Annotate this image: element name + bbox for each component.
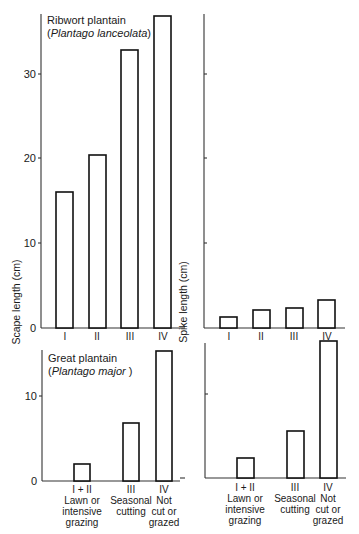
panel-bottom-left: 0 10 Great plantain (Plantago major ) I … bbox=[25, 350, 180, 528]
category-description: intensive bbox=[62, 506, 102, 517]
category-description: intensive bbox=[225, 504, 265, 515]
category-label: II bbox=[94, 331, 100, 342]
bar-IV bbox=[318, 300, 335, 328]
panel-title: Ribwort plantain bbox=[47, 14, 126, 26]
bar-IV bbox=[320, 341, 337, 478]
bar-II bbox=[253, 310, 270, 328]
y-tick-label: 0 bbox=[30, 322, 36, 334]
category-description: grazed bbox=[313, 515, 344, 526]
bar-IV bbox=[156, 351, 172, 481]
category-label: IV bbox=[159, 484, 169, 495]
category-label: I + II bbox=[235, 482, 255, 493]
category-description: Lawn or bbox=[227, 493, 263, 504]
bar-II bbox=[89, 155, 106, 328]
category-label: IV bbox=[158, 331, 168, 342]
category-description: grazing bbox=[229, 515, 262, 526]
category-label: III bbox=[127, 484, 135, 495]
bar-III bbox=[123, 423, 139, 481]
chart-figure: 0 10 20 30 Ribwort plantain (Plantago la… bbox=[0, 0, 359, 534]
panel-top-right: I II III IV bbox=[204, 14, 345, 342]
category-description: grazing bbox=[66, 517, 99, 528]
y-tick-label: 0 bbox=[31, 475, 37, 487]
panel-subtitle: (Plantago lanceolata) bbox=[47, 27, 151, 39]
bar-IV bbox=[154, 16, 171, 328]
category-description: cut or bbox=[151, 506, 177, 517]
bar-I-II bbox=[237, 458, 254, 478]
bar-III bbox=[286, 308, 303, 328]
bar-I bbox=[56, 192, 73, 328]
category-label: I bbox=[64, 331, 67, 342]
y-tick-label: 30 bbox=[24, 68, 36, 80]
category-label: III bbox=[291, 482, 299, 493]
panel-bottom-right: I + II Lawn or intensive grazing III Sea… bbox=[205, 341, 346, 526]
y-tick-label: 10 bbox=[24, 237, 36, 249]
y-tick-label: 20 bbox=[24, 152, 36, 164]
panel-subtitle: (Plantago major ) bbox=[48, 365, 132, 377]
category-description: cutting bbox=[280, 504, 309, 515]
category-label: I bbox=[228, 331, 231, 342]
panel-title: Great plantain bbox=[48, 352, 117, 364]
y-axis-title-left: Scape length (cm) bbox=[10, 259, 22, 344]
category-label: III bbox=[290, 331, 298, 342]
bar-III bbox=[287, 431, 304, 478]
category-description: Not bbox=[156, 495, 172, 506]
category-label: III bbox=[126, 331, 134, 342]
y-tick-label: 10 bbox=[25, 390, 37, 402]
category-description: Seasonal bbox=[274, 493, 316, 504]
category-label: II bbox=[258, 331, 264, 342]
category-description: grazed bbox=[149, 517, 180, 528]
category-description: Seasonal bbox=[110, 495, 152, 506]
category-description: Not bbox=[320, 493, 336, 504]
category-description: Lawn or bbox=[64, 495, 100, 506]
panel-top-left: 0 10 20 30 Ribwort plantain (Plantago la… bbox=[24, 14, 180, 342]
bar-III bbox=[121, 50, 138, 328]
category-description: cutting bbox=[116, 506, 145, 517]
y-axis-title-right: Spike length (cm) bbox=[177, 261, 189, 343]
bar-I-II bbox=[74, 464, 90, 481]
category-label: IV bbox=[323, 482, 333, 493]
category-description: cut or bbox=[315, 504, 341, 515]
bar-I bbox=[220, 317, 237, 328]
category-label: I + II bbox=[72, 484, 92, 495]
